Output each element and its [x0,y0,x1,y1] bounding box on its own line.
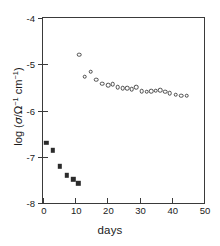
y-axis-label-text: log (σ/Ω−1 cm−1) [12,67,24,145]
data-point-open-circles [83,74,88,79]
x-axis-tick: 40 [172,198,173,203]
data-point-open-circles [88,69,93,74]
y-axis-tick-inner [43,157,48,158]
data-point-open-circles [100,81,105,86]
figure-scatter-conductivity: -4-5-6-7-801020304050 log (σ/Ω−1 cm−1) d… [0,0,220,246]
data-point-open-circles [173,92,178,97]
data-point-open-circles [94,77,99,82]
data-point-open-circles [115,85,120,90]
data-point-filled-squares [44,141,48,145]
data-point-open-circles [179,93,184,98]
data-point-open-circles [168,91,173,96]
y-axis-tick-label: -7 [27,153,35,163]
plot-area: -4-5-6-7-801020304050 [42,17,205,204]
x-axis-tick-label: 30 [135,206,146,216]
data-point-filled-squares [58,164,62,168]
y-axis-tick-inner [43,64,48,65]
data-point-filled-squares [76,181,80,185]
data-point-filled-squares [71,177,75,181]
y-axis-tick-inner [43,111,48,112]
x-axis-tick-label: 20 [103,206,114,216]
data-point-open-circles [134,85,139,90]
x-axis-tick-label: 10 [71,206,82,216]
data-point-open-circles [77,52,82,57]
data-point-open-circles [139,89,144,94]
y-axis-tick: -8 [38,203,43,204]
x-axis-label: days [0,224,220,236]
y-axis-tick-label: -8 [27,199,35,209]
data-point-filled-squares [50,148,54,152]
x-axis-tick: 0 [43,198,44,203]
x-axis-tick-label: 40 [168,206,179,216]
y-axis-tick: -4 [38,18,43,19]
x-axis-tick: 10 [75,198,76,203]
y-axis-tick-label: -5 [27,61,35,71]
x-axis-tick: 30 [140,198,141,203]
data-point-open-circles [184,93,189,98]
x-axis-tick: 20 [107,198,108,203]
y-axis-label: log (σ/Ω−1 cm−1) [12,42,25,172]
data-point-open-circles [110,82,115,87]
x-axis-tick: 50 [204,198,205,203]
data-point-filled-squares [65,173,69,177]
x-axis-tick-label: 0 [41,206,46,216]
x-axis-tick-label: 50 [200,206,211,216]
data-point-open-circles [158,88,163,93]
y-axis-tick-label: -4 [27,14,35,24]
y-axis-tick-label: -6 [27,107,35,117]
